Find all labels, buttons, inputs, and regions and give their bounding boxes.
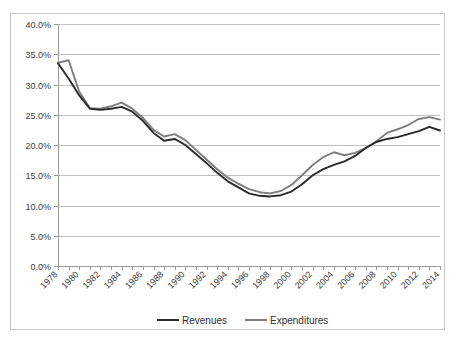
x-axis-tick-label: 2008: [357, 269, 378, 290]
y-axis-tick-label: 20.0%: [25, 141, 51, 151]
x-axis-tick-label: 1978: [38, 269, 59, 290]
x-axis-tick-label: 2012: [399, 269, 420, 290]
y-axis-tick-label: 25.0%: [25, 111, 51, 121]
legend-label-revenues: Revenues: [182, 315, 227, 326]
y-axis-labels-group: 0.0%5.0%10.0%15.0%20.0%25.0%30.0%35.0%40…: [25, 20, 51, 272]
x-axis-tick-label: 1996: [229, 269, 250, 290]
y-axis-tick-label: 10.0%: [25, 202, 51, 212]
x-axis-tick-label: 1982: [81, 269, 102, 290]
x-axis-tick-label: 2014: [420, 269, 441, 290]
y-axis-tick-label: 35.0%: [25, 50, 51, 60]
chart-legend: RevenuesExpenditures: [157, 315, 328, 326]
x-axis-tick-label: 2002: [293, 269, 314, 290]
x-axis-tick-label: 2010: [378, 269, 399, 290]
legend-label-expenditures: Expenditures: [270, 315, 328, 326]
series-line-revenues: [58, 63, 440, 196]
x-axis-tick-label: 1994: [208, 269, 229, 290]
x-axis-tick-label: 1980: [59, 269, 80, 290]
x-axis-tick-label: 1986: [123, 269, 144, 290]
x-axis-tick-label: 2000: [272, 269, 293, 290]
chart-container: 0.0%5.0%10.0%15.0%20.0%25.0%30.0%35.0%40…: [10, 13, 445, 330]
y-axis-tick-label: 30.0%: [25, 81, 51, 91]
x-axis-tick-label: 1988: [144, 269, 165, 290]
y-axis-tick-label: 40.0%: [25, 20, 51, 30]
y-axis-tick-label: 5.0%: [30, 232, 51, 242]
x-axis-labels-group: 1978198019821984198619881990199219941996…: [38, 269, 441, 290]
x-axis-tick-label: 2006: [335, 269, 356, 290]
data-series-group: [58, 60, 440, 196]
y-tick-marks-group: [54, 25, 58, 267]
y-axis-tick-label: 0.0%: [30, 262, 51, 272]
x-axis-tick-label: 1984: [102, 269, 123, 290]
x-axis-tick-label: 1990: [166, 269, 187, 290]
x-axis-tick-label: 1998: [250, 269, 271, 290]
line-chart: 0.0%5.0%10.0%15.0%20.0%25.0%30.0%35.0%40…: [11, 14, 444, 329]
gridlines-group: [58, 25, 440, 237]
x-axis-tick-label: 2004: [314, 269, 335, 290]
series-line-expenditures: [58, 60, 440, 193]
y-axis-tick-label: 15.0%: [25, 171, 51, 181]
x-axis-tick-label: 1992: [187, 269, 208, 290]
